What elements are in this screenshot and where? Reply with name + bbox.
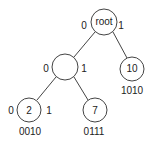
bit-label-mid-left: 0 <box>43 63 49 74</box>
bit-label-root-left: 0 <box>81 20 87 31</box>
edge-root-to-10 <box>113 32 127 58</box>
bit-label-2-right: 1 <box>46 105 52 116</box>
node-root-label: root <box>95 16 112 27</box>
code-10: 1010 <box>121 85 144 96</box>
node-10-label: 10 <box>126 63 138 74</box>
edge-root-to-mid <box>74 32 95 57</box>
trie-diagram: root 10 2 7 0 1 0 1 0 1 1010 0010 0111 <box>0 0 154 145</box>
edge-mid-to-7 <box>74 77 88 100</box>
edge-mid-to-2 <box>37 77 56 100</box>
bit-label-root-right: 1 <box>118 20 124 31</box>
code-7: 0111 <box>84 126 105 137</box>
code-2: 0010 <box>19 126 42 137</box>
bit-label-mid-right: 1 <box>81 63 87 74</box>
node-2-label: 2 <box>26 105 32 116</box>
node-7-label: 7 <box>92 105 98 116</box>
bit-label-2-left: 0 <box>8 105 14 116</box>
node-internal <box>52 54 78 80</box>
